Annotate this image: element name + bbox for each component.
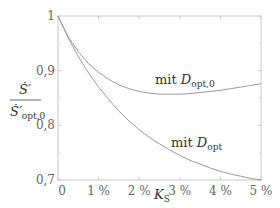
series-line-1 [58, 16, 261, 180]
y-label-denominator: Ṡ′opt,0 [10, 103, 46, 121]
x-tick-label: 3 % [168, 184, 191, 198]
x-tick-label: 0 [58, 184, 66, 198]
x-tick-label: 1 % [87, 184, 110, 198]
y-tick-label: 0,7 [36, 173, 55, 187]
series-group [58, 16, 261, 180]
x-axis: 01 %2 %3 %4 %5 % [58, 16, 272, 198]
annotations: mit Dopt,0mit Dopt [155, 72, 222, 152]
series-label: mit Dopt [171, 135, 222, 152]
chart: 0,70,80,91 01 %2 %3 %4 %5 % mit Dopt,0mi… [0, 0, 280, 208]
plot-frame [58, 16, 261, 180]
x-tick-label: 4 % [209, 184, 232, 198]
y-axis: 0,70,80,91 [36, 9, 261, 187]
y-tick-label: 1 [47, 9, 55, 23]
series-label: mit Dopt,0 [155, 72, 215, 89]
y-axis-label: Ṡ′Ṡ′opt,0 [10, 81, 46, 121]
x-axis-label: KS [153, 187, 170, 204]
x-tick-label: 2 % [128, 184, 151, 198]
x-tick-label: 5 % [250, 184, 273, 198]
x-label: KS [153, 187, 170, 204]
y-tick-label: 0,9 [36, 64, 55, 78]
plot-border [58, 16, 261, 180]
y-label-numerator: Ṡ′ [19, 81, 31, 97]
